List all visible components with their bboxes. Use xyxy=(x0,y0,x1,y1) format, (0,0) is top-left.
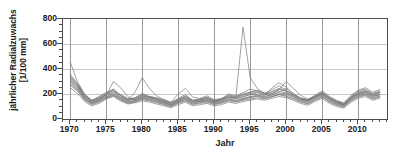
y-minor-tick xyxy=(59,87,62,88)
x-minor-tick xyxy=(112,119,113,122)
x-tick-label: 2000 xyxy=(276,124,295,134)
x-minor-tick xyxy=(206,119,207,122)
y-tick-label: 0 xyxy=(31,113,57,123)
y-minor-tick xyxy=(59,99,62,100)
x-minor-tick xyxy=(307,119,308,122)
x-axis-tick-labels: 197019751980198519901995200020052010 xyxy=(62,124,388,136)
x-minor-tick xyxy=(256,119,257,122)
x-minor-tick xyxy=(62,119,63,122)
y-axis-tick-marks xyxy=(62,18,63,120)
x-minor-tick xyxy=(98,119,99,122)
x-minor-tick xyxy=(76,119,77,122)
x-tick-label: 2010 xyxy=(348,124,367,134)
y-minor-tick xyxy=(59,37,62,38)
x-minor-tick xyxy=(372,119,373,122)
y-tick-label: 800 xyxy=(31,13,57,23)
y-major-tick xyxy=(57,18,62,19)
y-major-tick xyxy=(57,68,62,69)
y-major-tick xyxy=(57,93,62,94)
y-minor-tick xyxy=(59,106,62,107)
x-minor-tick xyxy=(364,119,365,122)
x-tick-label: 1970 xyxy=(60,124,79,134)
y-minor-tick xyxy=(59,49,62,50)
x-minor-tick xyxy=(228,119,229,122)
x-minor-tick xyxy=(127,119,128,122)
y-minor-tick xyxy=(59,24,62,25)
x-minor-tick xyxy=(300,119,301,122)
y-axis-tick-labels: 0200400600800 xyxy=(31,0,57,158)
y-axis-label-line1: jährlicher Radialzuwachs xyxy=(8,9,18,111)
x-minor-tick xyxy=(184,119,185,122)
chart-figure: jährlicher Radialzuwachs [1/100 mm] 0200… xyxy=(0,0,402,158)
plot-area xyxy=(62,18,388,120)
y-major-tick xyxy=(57,43,62,44)
x-axis-label: Jahr xyxy=(62,138,388,148)
y-axis-label-line2: [1/100 mm] xyxy=(18,9,28,111)
y-minor-tick xyxy=(59,81,62,82)
x-minor-tick xyxy=(314,119,315,122)
y-minor-tick xyxy=(59,31,62,32)
x-minor-tick xyxy=(242,119,243,122)
x-minor-tick xyxy=(271,119,272,122)
y-minor-tick xyxy=(59,74,62,75)
y-tick-label: 400 xyxy=(31,63,57,73)
x-minor-tick xyxy=(328,119,329,122)
x-minor-tick xyxy=(192,119,193,122)
x-minor-tick xyxy=(264,119,265,122)
x-minor-tick xyxy=(148,119,149,122)
x-minor-tick xyxy=(292,119,293,122)
x-tick-label: 2005 xyxy=(312,124,331,134)
x-minor-tick xyxy=(134,119,135,122)
x-minor-tick xyxy=(278,119,279,122)
x-tick-label: 1980 xyxy=(132,124,151,134)
x-minor-tick xyxy=(170,119,171,122)
x-minor-tick xyxy=(163,119,164,122)
x-tick-label: 1985 xyxy=(168,124,187,134)
x-minor-tick xyxy=(235,119,236,122)
x-minor-tick xyxy=(386,119,387,122)
y-tick-label: 200 xyxy=(31,88,57,98)
x-minor-tick xyxy=(84,119,85,122)
y-minor-tick xyxy=(59,62,62,63)
x-minor-tick xyxy=(199,119,200,122)
y-minor-tick xyxy=(59,56,62,57)
x-minor-tick xyxy=(350,119,351,122)
x-minor-tick xyxy=(156,119,157,122)
x-minor-tick xyxy=(336,119,337,122)
x-minor-tick xyxy=(91,119,92,122)
x-minor-tick xyxy=(120,119,121,122)
x-tick-label: 1975 xyxy=(96,124,115,134)
series-canvas xyxy=(63,19,387,119)
x-tick-label: 1995 xyxy=(240,124,259,134)
x-minor-tick xyxy=(220,119,221,122)
x-tick-label: 1990 xyxy=(204,124,223,134)
x-minor-tick xyxy=(343,119,344,122)
x-minor-tick xyxy=(379,119,380,122)
y-minor-tick xyxy=(59,112,62,113)
y-tick-label: 600 xyxy=(31,38,57,48)
